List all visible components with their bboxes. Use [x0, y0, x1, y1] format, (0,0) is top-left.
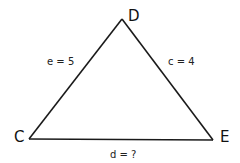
side-e	[29, 19, 122, 139]
triangle-diagram: D C E e = 5 c = 4 d = ?	[0, 0, 240, 163]
vertex-label-e: E	[220, 128, 229, 146]
side-label-d: d = ?	[110, 149, 136, 160]
side-label-e: e = 5	[47, 56, 74, 67]
vertex-label-d: D	[128, 7, 140, 25]
side-label-c: c = 4	[168, 56, 195, 67]
side-d	[29, 139, 213, 140]
side-c	[122, 19, 213, 140]
vertex-label-c: C	[14, 128, 24, 146]
